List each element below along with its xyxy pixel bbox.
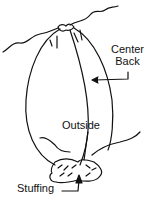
center-back-leader — [95, 72, 128, 80]
outside-label: Outside — [62, 119, 100, 131]
center-back-arrowhead — [92, 77, 98, 83]
bottom-left-string — [40, 137, 70, 152]
outside-leader — [84, 132, 88, 160]
stuffing-arrowhead — [76, 175, 82, 183]
casing-right-side — [74, 28, 113, 150]
top-right-string — [70, 6, 118, 25]
casing-diagram — [0, 0, 150, 203]
stuffing-label: Stuffing — [17, 182, 54, 194]
center-back-seam — [70, 30, 88, 165]
stuffing-puff — [50, 159, 102, 183]
center-back-label: Center Back — [111, 43, 144, 67]
center-back-label-line1: Center — [111, 43, 144, 55]
bottom-right-string — [92, 132, 140, 155]
center-back-label-line2: Back — [111, 55, 144, 67]
stuffing-texture — [58, 165, 96, 176]
top-knot — [58, 24, 74, 31]
